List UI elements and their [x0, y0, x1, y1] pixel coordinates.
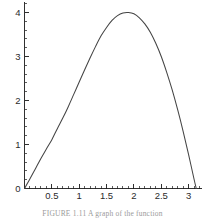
y-tick-label: 1: [15, 139, 20, 150]
axes-group: [25, 2, 203, 189]
x-tick-label: 1.5: [100, 190, 113, 201]
tick-marks-group: [25, 4, 200, 189]
x-tick-label: 3: [186, 190, 191, 201]
plot-area: 0.511.522.5301234: [0, 0, 205, 218]
y-tick-label: 4: [15, 7, 20, 18]
x-tick-label: 2.5: [155, 190, 168, 201]
tick-labels-group: 0.511.522.5301234: [15, 7, 191, 201]
data-curve: [25, 12, 197, 188]
data-curve-group: [25, 12, 197, 188]
origin-label: 0: [15, 183, 20, 194]
x-tick-label: 2: [131, 190, 136, 201]
y-tick-label: 3: [15, 51, 20, 62]
x-tick-label: 0.5: [45, 190, 58, 201]
x-tick-label: 1: [77, 190, 82, 201]
figure-container: 0.511.522.5301234 FIGURE 1.11 A graph of…: [0, 0, 205, 218]
figure-caption: FIGURE 1.11 A graph of the function: [0, 209, 205, 218]
y-tick-label: 2: [15, 95, 20, 106]
